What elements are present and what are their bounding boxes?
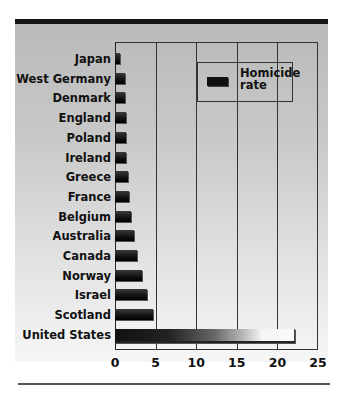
- bar: [115, 309, 153, 320]
- x-tick-label: 0: [111, 355, 120, 370]
- legend-label: Homicide rate: [240, 67, 290, 91]
- legend: Homicide rate: [197, 62, 293, 102]
- category-label: Belgium: [58, 210, 111, 224]
- bar: [115, 329, 295, 343]
- x-tick-label: 20: [269, 355, 286, 370]
- bar: [115, 230, 134, 241]
- gridline: [156, 43, 157, 349]
- top-rule: [15, 19, 328, 24]
- bar: [115, 152, 126, 163]
- category-label: Israel: [75, 288, 111, 302]
- legend-label-line2: rate: [240, 79, 290, 91]
- bar: [115, 53, 120, 64]
- category-label: England: [59, 111, 111, 125]
- x-tick-label: 25: [309, 355, 326, 370]
- category-label: Poland: [67, 131, 111, 145]
- x-tick-label: 15: [228, 355, 245, 370]
- bar: [115, 211, 131, 222]
- category-label: Denmark: [52, 91, 111, 105]
- legend-swatch: [207, 77, 228, 86]
- category-label: France: [68, 190, 111, 204]
- bar: [115, 92, 125, 103]
- category-label: West Germany: [16, 72, 111, 86]
- bar: [115, 289, 147, 300]
- bottom-rule: [18, 383, 330, 385]
- bar: [115, 112, 126, 123]
- x-tick-label: 5: [151, 355, 160, 370]
- bar: [115, 250, 137, 261]
- bar: [115, 132, 126, 143]
- category-label: Scotland: [54, 308, 111, 322]
- bar: [115, 191, 129, 202]
- category-label: Norway: [62, 269, 111, 283]
- category-label: Canada: [63, 249, 111, 263]
- bar: [115, 171, 128, 182]
- bar: [115, 73, 125, 84]
- category-label: Greece: [66, 170, 111, 184]
- bar: [115, 270, 142, 281]
- category-label: Ireland: [65, 151, 111, 165]
- category-label: Japan: [75, 52, 111, 66]
- category-label: Australia: [52, 229, 111, 243]
- category-label: United States: [22, 328, 111, 342]
- x-tick-label: 10: [187, 355, 204, 370]
